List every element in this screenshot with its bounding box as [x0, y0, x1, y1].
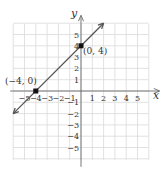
- coordinate-plane: −5−4−3−2−112345−5−4−3−2−112345 (−4, 0)(0…: [0, 0, 168, 178]
- y-tick-label: −1: [67, 98, 79, 107]
- x-tick-label: 2: [101, 94, 106, 103]
- y-tick-label: 5: [74, 31, 79, 40]
- y-tick-label: 3: [74, 53, 79, 62]
- x-tick-label: 3: [112, 94, 117, 103]
- y-tick-label: −5: [67, 144, 79, 153]
- y-axis-label: y: [70, 7, 78, 20]
- y-tick-label: 2: [74, 64, 79, 73]
- x-tick-label: 5: [135, 94, 140, 103]
- x-tick-label: −2: [53, 94, 65, 103]
- point-label: (0, 4): [83, 46, 107, 56]
- x-tick-label: 4: [124, 94, 129, 103]
- y-tick-label: −3: [67, 121, 79, 130]
- x-axis-label: x: [153, 89, 160, 102]
- point-marker: [33, 89, 38, 94]
- y-tick-label: −2: [67, 110, 79, 119]
- y-tick-label: −4: [67, 132, 79, 141]
- x-tick-label: 1: [90, 94, 95, 103]
- x-tick-label: −3: [41, 94, 53, 103]
- y-tick-label: 1: [74, 76, 79, 85]
- point-label: (−4, 0): [5, 76, 37, 86]
